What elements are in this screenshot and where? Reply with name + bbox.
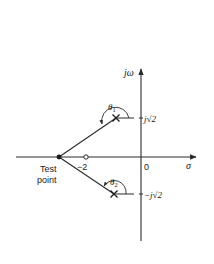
zero-label: −2 <box>77 162 87 172</box>
origin-label: 0 <box>144 162 149 172</box>
theta1-label: θ1 <box>108 102 116 113</box>
test-point-label-line2: point <box>37 175 57 185</box>
lower-pole-label: −j√2 <box>144 190 163 200</box>
vector-to-upper-pole <box>59 118 116 157</box>
upper-pole-label: j√2 <box>143 114 156 124</box>
s-plane-diagram: jω σ 0 Test point −2 θ1 j√2 θ2 −j√2 <box>0 0 214 264</box>
real-axis-label: σ <box>186 160 192 171</box>
theta2-label: θ2 <box>110 177 118 188</box>
test-point-label-line1: Test <box>40 164 57 174</box>
test-point-marker <box>57 155 62 160</box>
zero-marker <box>84 155 88 159</box>
imaginary-axis-label: jω <box>122 67 134 78</box>
